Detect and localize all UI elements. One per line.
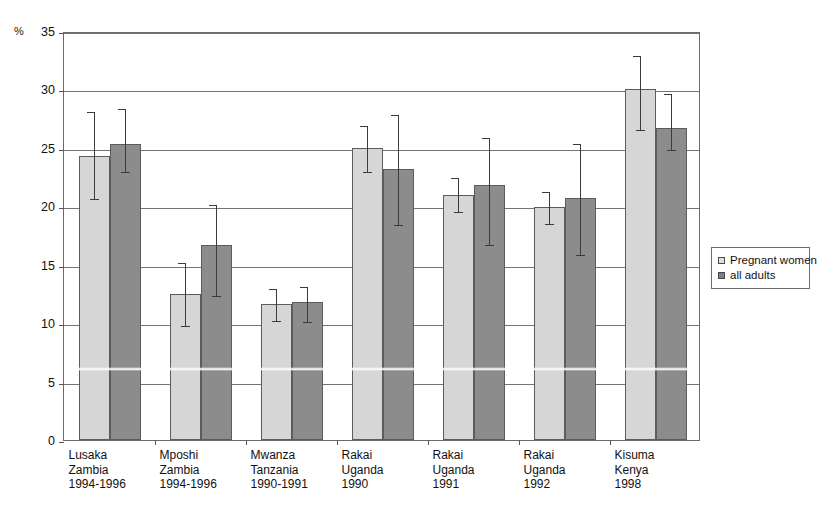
y-axis-tick-mark bbox=[59, 91, 64, 92]
x-axis-category-label-line: Kisuma bbox=[615, 448, 655, 463]
bar bbox=[261, 304, 292, 440]
x-axis-category-label: RakaiUganda1992 bbox=[524, 448, 566, 492]
x-axis-category-label-line: Mwanza bbox=[251, 448, 308, 463]
legend-item-label: all adults bbox=[730, 268, 775, 283]
legend-swatch-icon bbox=[718, 272, 725, 279]
bar bbox=[79, 156, 110, 440]
y-axis-tick-mark bbox=[59, 208, 64, 209]
error-bar-cap-top bbox=[360, 126, 368, 127]
x-axis-category-label-line: Mposhi bbox=[160, 448, 217, 463]
gridline bbox=[64, 33, 699, 34]
x-axis-category-label-line: 1998 bbox=[615, 477, 655, 492]
error-bar-cap-top bbox=[573, 144, 581, 145]
error-bar-cap-top bbox=[542, 192, 550, 193]
gridline bbox=[64, 91, 699, 92]
y-axis-tick-label: 35 bbox=[29, 26, 55, 39]
bar bbox=[443, 195, 474, 440]
x-axis-category-label-line: Rakai bbox=[524, 448, 566, 463]
x-axis-category-label: RakaiUganda1991 bbox=[433, 448, 475, 492]
legend-item: all adults bbox=[718, 268, 805, 283]
legend-item-label: Pregnant women bbox=[730, 253, 817, 268]
chart-legend: Pregnant womenall adults bbox=[711, 247, 810, 289]
bar bbox=[170, 294, 201, 440]
x-axis-category-label-line: Rakai bbox=[342, 448, 384, 463]
bar bbox=[201, 245, 232, 440]
error-bar-cap-top bbox=[209, 205, 217, 206]
y-axis-tick-label: 10 bbox=[29, 318, 55, 331]
y-axis-tick-mark bbox=[59, 325, 64, 326]
bar bbox=[292, 302, 323, 440]
x-axis-tick-mark bbox=[428, 440, 429, 445]
bar bbox=[474, 185, 505, 440]
error-bar-cap-top bbox=[87, 112, 95, 113]
error-bar-cap-top bbox=[391, 115, 399, 116]
x-axis-category-label-line: Lusaka bbox=[69, 448, 126, 463]
x-axis-category-label-line: Zambia bbox=[69, 463, 126, 478]
x-axis-tick-mark bbox=[337, 440, 338, 445]
y-axis-tick-mark bbox=[59, 442, 64, 443]
x-axis-category-label-line: 1992 bbox=[524, 477, 566, 492]
x-axis-category-label: RakaiUganda1990 bbox=[342, 448, 384, 492]
bar bbox=[383, 169, 414, 440]
x-axis-category-label-line: 1994-1996 bbox=[160, 477, 217, 492]
x-axis-category-label: MwanzaTanzania1990-1991 bbox=[251, 448, 308, 492]
y-axis-unit-label: % bbox=[14, 25, 24, 37]
error-bar-cap-top bbox=[482, 138, 490, 139]
x-axis-tick-mark bbox=[246, 440, 247, 445]
bar bbox=[534, 207, 565, 440]
x-axis-tick-mark bbox=[155, 440, 156, 445]
x-axis-category-label-line: Rakai bbox=[433, 448, 475, 463]
error-bar-cap-top bbox=[178, 263, 186, 264]
legend-item: Pregnant women bbox=[718, 253, 805, 268]
x-axis-category-label-line: 1991 bbox=[433, 477, 475, 492]
error-bar-cap-top bbox=[451, 178, 459, 179]
x-axis-category-label-line: Uganda bbox=[524, 463, 566, 478]
error-bar-cap-top bbox=[269, 289, 277, 290]
y-axis-tick-label: 15 bbox=[29, 260, 55, 273]
error-bar-cap-top bbox=[118, 109, 126, 110]
y-axis-tick-mark bbox=[59, 267, 64, 268]
x-axis-category-label: MposhiZambia1994-1996 bbox=[160, 448, 217, 492]
bar bbox=[565, 198, 596, 440]
x-axis-tick-mark bbox=[519, 440, 520, 445]
x-axis-category-label-line: 1990 bbox=[342, 477, 384, 492]
y-axis-tick-mark bbox=[59, 150, 64, 151]
y-axis-tick-mark bbox=[59, 384, 64, 385]
y-axis-tick-mark bbox=[59, 33, 64, 34]
bar bbox=[352, 148, 383, 440]
error-bar-cap-top bbox=[300, 287, 308, 288]
x-axis-category-label-line: Zambia bbox=[160, 463, 217, 478]
x-axis-category-label: KisumaKenya1998 bbox=[615, 448, 655, 492]
x-axis-category-label-line: Uganda bbox=[342, 463, 384, 478]
y-axis-tick-label: 25 bbox=[29, 143, 55, 156]
x-axis-category-label-line: Uganda bbox=[433, 463, 475, 478]
x-axis-category-label-line: Kenya bbox=[615, 463, 655, 478]
x-axis-tick-mark bbox=[610, 440, 611, 445]
x-axis-category-label-line: 1990-1991 bbox=[251, 477, 308, 492]
legend-swatch-icon bbox=[718, 257, 725, 264]
x-axis-category-label-line: Tanzania bbox=[251, 463, 308, 478]
error-bar-cap-top bbox=[633, 56, 641, 57]
y-axis-tick-label: 0 bbox=[29, 435, 55, 448]
y-axis-tick-label: 5 bbox=[29, 377, 55, 390]
bar-chart: % 05101520253035 LusakaZambia1994-1996Mp… bbox=[0, 0, 837, 515]
plot-area bbox=[63, 32, 700, 441]
bar bbox=[110, 144, 141, 440]
x-axis-category-label: LusakaZambia1994-1996 bbox=[69, 448, 126, 492]
error-bar-cap-top bbox=[664, 94, 672, 95]
bar bbox=[656, 128, 687, 440]
y-axis-tick-label: 30 bbox=[29, 84, 55, 97]
bar bbox=[625, 89, 656, 440]
x-axis-category-label-line: 1994-1996 bbox=[69, 477, 126, 492]
y-axis-tick-label: 20 bbox=[29, 201, 55, 214]
